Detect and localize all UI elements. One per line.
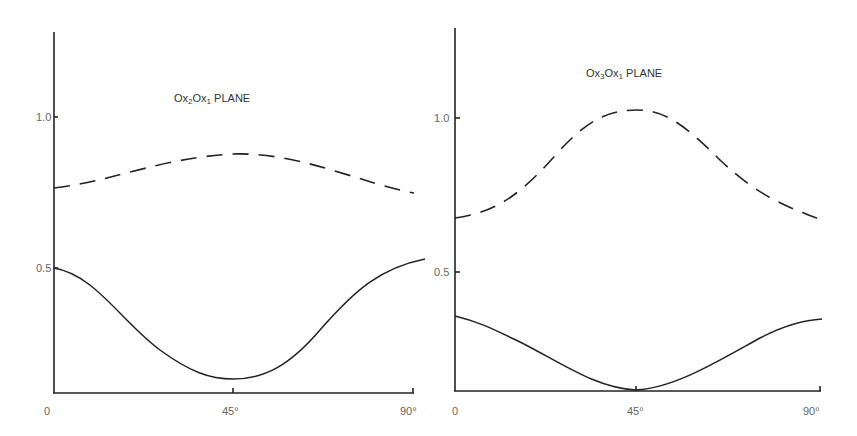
right-x-label-90: 90° [803, 405, 820, 417]
left-x-label-0: 0 [44, 405, 50, 417]
left-dashed-curve [54, 154, 414, 193]
left-x-label-45: 45° [222, 405, 239, 417]
right-y-label-1: 1.0 [434, 112, 449, 124]
left-solid-curve [54, 259, 425, 379]
right-chart-title: Ox3Ox1 PLANE [586, 67, 662, 81]
right-x-label-45: 45° [627, 405, 644, 417]
left-x-label-90: 90° [400, 405, 417, 417]
left-chart: 1.0 0.5 0 45° 90° Ox2Ox1 PLANE [36, 32, 425, 417]
left-y-label-05: 0.5 [36, 262, 51, 274]
right-y-label-05: 0.5 [434, 266, 449, 278]
right-solid-curve [455, 316, 822, 390]
left-y-label-1: 1.0 [36, 111, 51, 123]
right-chart: 1.0 0.5 0 45° 90° Ox3Ox1 PLANE [434, 28, 822, 417]
figure: 1.0 0.5 0 45° 90° Ox2Ox1 PLANE 1.0 0.5 0… [0, 0, 857, 436]
left-chart-title: Ox2Ox1 PLANE [174, 92, 250, 106]
right-dashed-curve [455, 110, 822, 220]
right-x-label-0: 0 [452, 405, 458, 417]
